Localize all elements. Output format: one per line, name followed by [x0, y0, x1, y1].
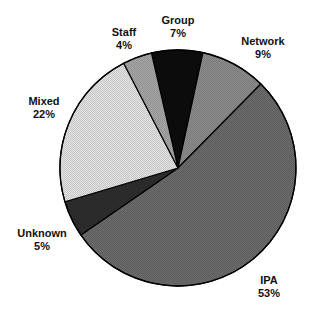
label-percent: 53% — [258, 287, 280, 300]
label-name: Staff — [112, 26, 136, 39]
label-percent: 7% — [162, 27, 195, 40]
label-name: Network — [241, 35, 284, 48]
label-percent: 9% — [241, 48, 284, 61]
label-staff: Staff4% — [112, 26, 136, 52]
label-unknown: Unknown5% — [17, 227, 67, 253]
label-ipa: IPA53% — [258, 274, 280, 300]
label-group: Group7% — [162, 14, 195, 40]
label-name: Unknown — [17, 227, 67, 240]
label-percent: 5% — [17, 240, 67, 253]
label-percent: 22% — [28, 108, 59, 121]
label-name: IPA — [258, 274, 280, 287]
label-network: Network9% — [241, 35, 284, 61]
label-mixed: Mixed22% — [28, 95, 59, 121]
label-name: Mixed — [28, 95, 59, 108]
label-name: Group — [162, 14, 195, 27]
label-percent: 4% — [112, 39, 136, 52]
pie-slices — [60, 50, 296, 286]
